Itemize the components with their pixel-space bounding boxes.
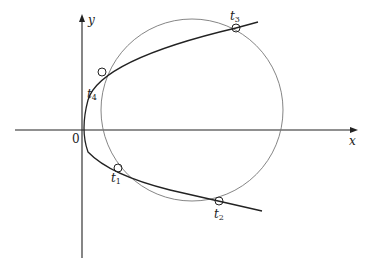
circle-curve — [101, 19, 283, 201]
point-label-t3: t3 — [230, 9, 240, 24]
origin-label: 0 — [72, 132, 80, 146]
x-axis-label: x — [349, 134, 356, 148]
point-marker-t4 — [98, 68, 106, 76]
point-label-t4: t4 — [87, 87, 97, 102]
x-axis-arrow-icon — [350, 127, 358, 133]
diagram-canvas: x y 0 t1 t2 t3 t4 — [0, 0, 369, 270]
y-axis-arrow-icon — [79, 14, 85, 22]
y-axis-label: y — [87, 13, 95, 27]
point-label-t2: t2 — [214, 207, 224, 222]
